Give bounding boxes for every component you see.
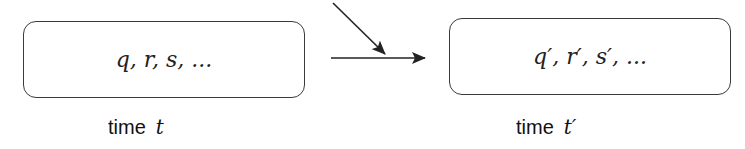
time-variable-t: t (156, 115, 164, 139)
time-word: time (108, 116, 146, 138)
external-input-arrow (333, 3, 385, 54)
time-label-t: timet (108, 115, 164, 139)
time-variable-t-prime: t′ (564, 115, 577, 139)
time-word: time (516, 116, 554, 138)
time-label-t-prime: timet′ (516, 115, 576, 139)
